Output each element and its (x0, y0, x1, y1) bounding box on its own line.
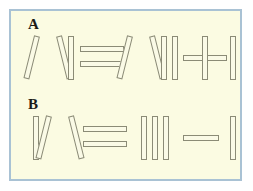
matchstick (161, 36, 167, 80)
puzzle-panel: A (9, 9, 242, 181)
matchstick (230, 116, 236, 160)
row-label-b: B (28, 97, 38, 112)
equation-row-b: B (11, 95, 240, 175)
matchstick (83, 126, 127, 132)
equation-b (11, 113, 240, 169)
matchstick (23, 35, 39, 79)
matchstick (172, 36, 178, 80)
matchstick (202, 36, 208, 80)
matchstick (68, 36, 74, 80)
matchstick-puzzle-figure: A (0, 0, 253, 191)
matchstick (230, 36, 236, 80)
matchstick (83, 141, 127, 147)
matchstick (80, 46, 124, 52)
matchstick (163, 116, 169, 160)
matchstick (183, 135, 219, 141)
matchstick (141, 116, 147, 160)
matchstick (80, 61, 124, 67)
matchstick (152, 116, 158, 160)
row-label-a: A (28, 17, 39, 32)
matchstick (68, 115, 84, 159)
equation-a (11, 33, 240, 89)
equation-row-a: A (11, 15, 240, 95)
matchstick (116, 35, 132, 79)
